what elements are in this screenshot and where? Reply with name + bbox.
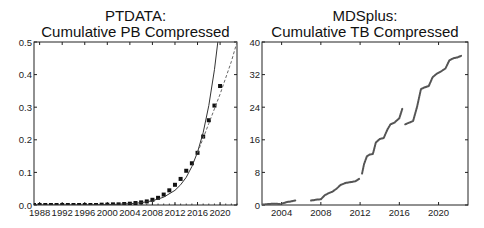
data-series [283,201,296,204]
x-tick-label: 2016 [389,207,410,218]
data-series [311,179,359,201]
y-tick-label: 32 [249,69,260,80]
mdsplus-plot-area: 200420082012201620200816243240 [0,0,484,228]
mdsplus-chart: MDSplus: Cumulative TB Compressed 200420… [0,0,484,228]
y-tick-label: 24 [249,102,260,113]
x-tick-label: 2020 [428,207,449,218]
data-series [405,56,461,124]
y-tick-label: 0 [255,200,260,211]
y-tick-label: 16 [249,134,260,145]
x-tick-label: 2008 [310,207,331,218]
axes-frame [262,42,468,205]
data-series [362,109,402,174]
y-tick-label: 40 [249,37,260,48]
x-tick-label: 2004 [271,207,292,218]
x-tick-label: 2012 [350,207,371,218]
data-series [262,204,281,205]
y-tick-label: 8 [255,167,260,178]
